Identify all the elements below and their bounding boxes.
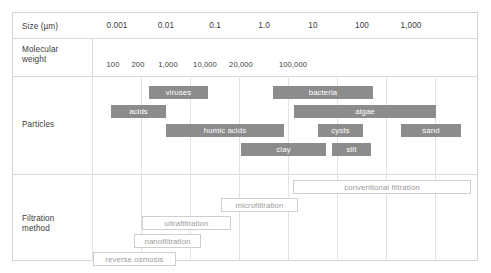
size-tick-6: 1,000 bbox=[401, 21, 422, 30]
filtration-box-label-reverse-osmosis: reverse osmosis bbox=[105, 255, 163, 264]
particle-bar-cysts: cysts bbox=[318, 124, 363, 137]
filtration-box-microfiltration: microfiltration bbox=[221, 198, 298, 212]
particle-bar-sand: sand bbox=[401, 124, 461, 137]
particle-bar-label-silt: silt bbox=[347, 145, 357, 154]
filtration-box-label-microfiltration: microfiltration bbox=[236, 201, 284, 210]
particle-bar-label-cysts: cysts bbox=[331, 126, 349, 135]
row-label-filtration-line2: method bbox=[22, 223, 50, 234]
gridline-4 bbox=[288, 76, 289, 261]
particle-bar-label-sand: sand bbox=[422, 126, 439, 135]
size-tick-2: 0.1 bbox=[209, 21, 221, 30]
particle-size-filtration-chart: Size (µm) 0.001 0.01 0.1 1.0 10 100 1,00… bbox=[0, 0, 491, 273]
particle-bar-label-humic-acids: humic acids bbox=[204, 126, 246, 135]
row-label-particles: Particles bbox=[22, 119, 54, 130]
row-divider-size bbox=[13, 38, 477, 39]
size-tick-4: 10 bbox=[308, 21, 317, 30]
particle-bar-label-algae: algae bbox=[355, 107, 375, 116]
chart-table: Size (µm) 0.001 0.01 0.1 1.0 10 100 1,00… bbox=[12, 12, 478, 261]
row-divider-molecular-weight bbox=[13, 76, 477, 77]
particle-bar-bacteria: bacteria bbox=[273, 86, 373, 99]
gridline-0 bbox=[92, 76, 93, 261]
gridline-6 bbox=[386, 76, 387, 261]
particle-bar-label-viruses: viruses bbox=[166, 88, 191, 97]
particle-bar-algae: algae bbox=[294, 105, 436, 118]
mw-tick-4: 20,000 bbox=[229, 60, 253, 69]
particle-bar-label-clay: clay bbox=[276, 145, 290, 154]
size-tick-3: 1.0 bbox=[258, 21, 270, 30]
row-label-size: Size (µm) bbox=[22, 21, 58, 32]
particle-bar-viruses: viruses bbox=[149, 86, 208, 99]
particle-bar-humic-acids: humic acids bbox=[166, 124, 284, 137]
mw-tick-1: 200 bbox=[132, 60, 145, 69]
filtration-box-label-conventional-filtration: conventional filtration bbox=[344, 183, 420, 192]
mw-tick-2: 1,000 bbox=[158, 60, 178, 69]
particle-bar-acids: acids bbox=[111, 105, 166, 118]
gridline-3 bbox=[239, 76, 240, 261]
mw-tick-5: 100,000 bbox=[279, 60, 307, 69]
filtration-box-label-nanofiltration: nanofiltration bbox=[144, 237, 190, 246]
size-tick-5: 100 bbox=[355, 21, 369, 30]
particle-bar-label-bacteria: bacteria bbox=[309, 88, 338, 97]
particle-bar-clay: clay bbox=[241, 143, 326, 156]
mw-tick-0: 100 bbox=[107, 60, 120, 69]
gridline-7 bbox=[435, 76, 436, 261]
filtration-box-conventional-filtration: conventional filtration bbox=[293, 180, 471, 194]
size-tick-0: 0.001 bbox=[107, 21, 128, 30]
filtration-box-reverse-osmosis: reverse osmosis bbox=[93, 252, 176, 266]
filtration-box-nanofiltration: nanofiltration bbox=[134, 234, 201, 248]
particle-bar-silt: silt bbox=[332, 143, 371, 156]
size-tick-1: 0.01 bbox=[158, 21, 174, 30]
filtration-box-label-ultrafiltration: ultrafiltration bbox=[165, 219, 209, 228]
row-divider-particles bbox=[13, 174, 477, 175]
filtration-box-ultrafiltration: ultrafiltration bbox=[142, 216, 231, 230]
mw-tick-3: 10,000 bbox=[193, 60, 217, 69]
row-label-molecular-weight-line2: weight bbox=[22, 54, 46, 65]
particle-bar-label-acids: acids bbox=[129, 107, 148, 116]
gridline-5 bbox=[337, 76, 338, 261]
